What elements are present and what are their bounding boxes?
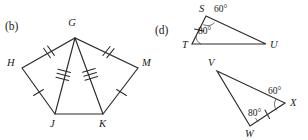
angle-label-s: 60°	[214, 4, 228, 14]
vertex-label-k: K	[98, 118, 107, 129]
geometry-figure-canvas: (b)	[0, 0, 308, 140]
vertex-label-g: G	[68, 17, 76, 28]
figure-d-group: (d) S T U 60° 80° V X	[155, 3, 297, 139]
figure-b-part-label: (b)	[5, 20, 19, 33]
angle-arc-t	[196, 36, 201, 44]
pentagon-outline-hgmkj	[22, 38, 138, 114]
vertex-label-v: V	[208, 57, 216, 68]
tickmarks-hg	[44, 46, 55, 58]
triangle-vwx-group: V X W 60° 80°	[208, 57, 297, 139]
vertex-label-w: W	[245, 128, 255, 139]
tickmarks-gk	[83, 69, 98, 81]
vertex-label-u: U	[270, 39, 279, 50]
angle-label-t: 80°	[198, 26, 212, 36]
triangle-stu-group: S T U 60° 80°	[182, 3, 279, 50]
angle-label-w: 80°	[248, 108, 262, 118]
vertex-label-x: X	[289, 97, 297, 108]
angle-label-x: 60°	[268, 86, 282, 96]
vertex-label-h: H	[6, 57, 16, 68]
vertex-label-t: T	[182, 39, 189, 50]
segment-gj	[55, 38, 75, 114]
vertex-label-j: J	[50, 118, 56, 129]
vertex-label-s: S	[199, 3, 205, 14]
figure-d-part-label: (d)	[155, 24, 169, 37]
vertex-label-m: M	[141, 57, 152, 68]
tickmarks-gj	[56, 69, 71, 80]
figure-b-group: (b)	[5, 17, 152, 129]
